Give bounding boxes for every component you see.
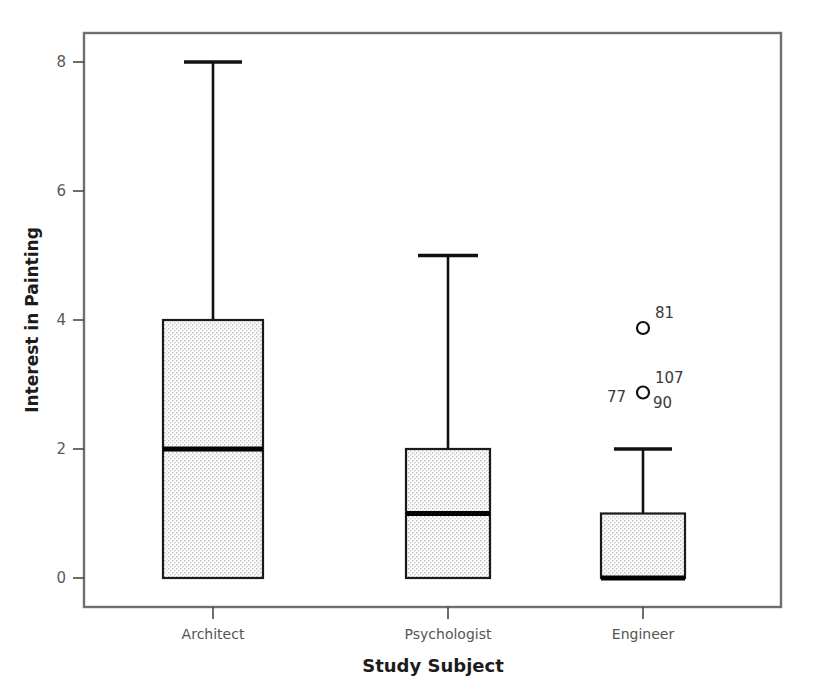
boxplot-chart: 02468 ArchitectPsychologistEngineer 8110… <box>0 0 820 694</box>
outlier-point <box>637 322 649 334</box>
box-iqr <box>601 514 685 579</box>
y-tick-label: 4 <box>56 311 66 329</box>
box-series <box>163 62 685 578</box>
x-tick-label-engineer: Engineer <box>612 626 675 642</box>
outlier-case-label: 90 <box>653 394 672 412</box>
x-axis-title: Study Subject <box>362 655 504 676</box>
outlier-case-label: 81 <box>655 304 674 322</box>
x-axis: ArchitectPsychologistEngineer <box>182 607 675 642</box>
y-axis: 02468 <box>56 53 84 587</box>
outlier-case-label: 107 <box>655 369 684 387</box>
outlier-case-label: 77 <box>607 388 626 406</box>
outlier-series: 811077790 <box>607 304 684 412</box>
boxplot-architect <box>163 62 263 578</box>
y-tick-label: 2 <box>56 440 66 458</box>
x-tick-label-psychologist: Psychologist <box>405 626 492 642</box>
y-tick-label: 8 <box>56 53 66 71</box>
y-tick-label: 0 <box>56 569 66 587</box>
boxplot-canvas: 02468 ArchitectPsychologistEngineer 8110… <box>0 0 820 694</box>
y-axis-title: Interest in Painting <box>22 227 42 413</box>
outlier-point <box>637 387 649 399</box>
boxplot-psychologist <box>406 256 490 579</box>
boxplot-engineer <box>601 449 685 578</box>
x-tick-label-architect: Architect <box>182 626 245 642</box>
y-tick-label: 6 <box>56 182 66 200</box>
